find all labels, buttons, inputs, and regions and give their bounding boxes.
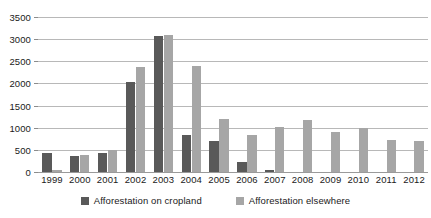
y-tick-label: 3000 <box>9 34 31 45</box>
y-tick-label: 500 <box>15 144 31 155</box>
bar-group <box>94 17 122 172</box>
x-tick-label: 2002 <box>125 174 147 185</box>
axis-line-zero <box>38 172 428 173</box>
bars-layer <box>38 17 428 172</box>
x-tick-label: 2012 <box>403 174 425 185</box>
x-tick-label: 2003 <box>153 174 175 185</box>
bar-group <box>261 17 289 172</box>
bar <box>303 120 312 172</box>
legend-swatch-icon <box>81 197 89 205</box>
bar <box>192 66 201 172</box>
y-tick-label: 1000 <box>9 122 31 133</box>
bar-chart: 0500100015002000250030003500 19992000200… <box>0 0 431 218</box>
y-tick-label: 1500 <box>9 100 31 111</box>
bar <box>182 135 191 172</box>
bar-group <box>177 17 205 172</box>
bar-group <box>205 17 233 172</box>
bar <box>108 150 117 172</box>
x-tick-label: 2011 <box>376 174 397 185</box>
x-tick-label: 2007 <box>264 174 286 185</box>
x-tick-label: 2004 <box>180 174 202 185</box>
bar-group <box>38 17 66 172</box>
bar <box>414 141 423 172</box>
bar <box>80 155 89 172</box>
bar <box>237 162 246 172</box>
bar-group <box>344 17 372 172</box>
bar <box>164 35 173 172</box>
bar-group <box>149 17 177 172</box>
bar <box>359 128 368 172</box>
y-tick-label: 2000 <box>9 78 31 89</box>
bar <box>42 153 51 172</box>
legend-item: Afforestation elsewhere <box>236 195 350 206</box>
bar-group <box>233 17 261 172</box>
bar <box>154 36 163 172</box>
y-tick-label: 2500 <box>9 56 31 67</box>
bar-group <box>400 17 428 172</box>
y-tick-label: 3500 <box>9 12 31 23</box>
bar-group <box>66 17 94 172</box>
legend-label: Afforestation on cropland <box>94 195 202 206</box>
bar-group <box>122 17 150 172</box>
bar-group <box>317 17 345 172</box>
x-tick-label: 2010 <box>348 174 370 185</box>
legend-label: Afforestation elsewhere <box>249 195 350 206</box>
x-tick-label: 2006 <box>236 174 258 185</box>
x-axis: 1999200020012002200320042005200620072008… <box>38 174 428 188</box>
x-tick-label: 2005 <box>208 174 230 185</box>
y-tick-label: 0 <box>26 167 31 178</box>
bar <box>52 170 61 172</box>
legend-item: Afforestation on cropland <box>81 195 202 206</box>
y-axis: 0500100015002000250030003500 <box>0 0 36 218</box>
bar <box>126 82 135 172</box>
bar <box>209 141 218 172</box>
bar <box>265 170 274 172</box>
bar <box>275 127 284 172</box>
bar-group <box>372 17 400 172</box>
chart-legend: Afforestation on croplandAfforestation e… <box>0 195 431 206</box>
bar <box>247 135 256 172</box>
bar-group <box>289 17 317 172</box>
bar <box>136 67 145 172</box>
bar <box>387 140 396 172</box>
bar <box>219 119 228 172</box>
bar <box>331 132 340 172</box>
bar <box>98 153 107 172</box>
bar <box>70 156 79 172</box>
x-tick-label: 2001 <box>97 174 119 185</box>
x-tick-label: 1999 <box>41 174 63 185</box>
plot-area <box>38 17 428 172</box>
legend-swatch-icon <box>236 197 244 205</box>
x-tick-label: 2000 <box>69 174 91 185</box>
x-tick-label: 2008 <box>292 174 314 185</box>
x-tick-label: 2009 <box>320 174 342 185</box>
